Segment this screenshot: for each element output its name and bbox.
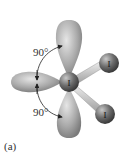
central-atom-label: I bbox=[68, 78, 71, 88]
panel-label: (a) bbox=[4, 141, 16, 152]
angle-label-top: 90° bbox=[33, 47, 48, 58]
molecule-diagram: I I I bbox=[0, 0, 133, 161]
angle-label-bottom: 90° bbox=[33, 107, 48, 118]
lone-pair-lobe-bottom bbox=[57, 88, 81, 138]
lower-right-atom-label: I bbox=[104, 110, 107, 120]
lone-pair-lobe-top bbox=[56, 20, 82, 78]
lone-pair-lobe-left bbox=[11, 72, 62, 92]
upper-right-atom-label: I bbox=[108, 59, 111, 69]
